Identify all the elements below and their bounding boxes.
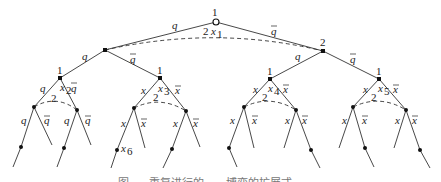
edge-label-x: x	[140, 84, 146, 96]
info-player-2: 2	[262, 91, 268, 103]
info-set-x: x	[59, 81, 65, 93]
edge-root-left	[105, 22, 216, 50]
edge-label-q: q	[172, 19, 178, 31]
info-set-x: x	[267, 82, 273, 94]
node-player-1: 1	[267, 65, 273, 77]
decision-node	[294, 108, 298, 112]
node-player-1: 1	[376, 65, 382, 77]
root-info-sub: 1	[217, 28, 223, 40]
decision-node	[158, 76, 162, 80]
info-player-2: 2	[51, 92, 57, 104]
decision-node	[404, 108, 408, 112]
edge	[420, 150, 430, 168]
info-set-x: x	[377, 82, 383, 94]
leaf-info-set-sub: 6	[127, 145, 133, 157]
edge	[21, 107, 34, 147]
decision-node	[58, 76, 62, 80]
leaf-info-set-x: x	[120, 142, 126, 154]
game-tree-diagram: 1 2 x 1 q q 2 q q q q 1 1 1 1 q x 2 q 2 …	[0, 0, 441, 182]
edge-label-qbar: q	[350, 53, 356, 65]
info-set-sub: 5	[384, 85, 390, 97]
game-tree-svg: 1 2 x 1 q q 2 q q q q 1 1 1 1 q x 2 q 2 …	[0, 0, 441, 182]
decision-node	[184, 109, 188, 113]
info-set	[134, 102, 186, 111]
info-set	[353, 101, 406, 110]
edge-label-q: q	[40, 82, 46, 94]
info-set	[244, 101, 296, 110]
edge-label-x: x	[172, 117, 178, 129]
decision-node	[418, 148, 422, 152]
edge	[57, 148, 64, 167]
info-set-sub: 3	[164, 85, 170, 97]
edge-label-qbar: q	[71, 82, 77, 94]
info-player-2: 2	[371, 91, 377, 103]
info-set-sub: 4	[274, 85, 280, 97]
decision-node	[321, 49, 325, 53]
edge	[311, 150, 320, 168]
edge-label-x: x	[362, 83, 368, 95]
decision-node	[75, 108, 79, 112]
node-player-2: 2	[320, 36, 326, 48]
edge-label-q: q	[21, 114, 27, 126]
root-info-set: x	[210, 25, 216, 37]
info-player-2: 2	[153, 91, 159, 103]
decision-node	[19, 145, 23, 149]
edge	[365, 148, 374, 167]
node-player-1: 1	[157, 64, 163, 76]
decision-node	[227, 146, 231, 150]
decision-node	[242, 105, 246, 109]
decision-node	[62, 146, 66, 150]
edge-label-x: x	[341, 114, 347, 126]
edge	[163, 149, 172, 168]
edge	[34, 107, 52, 145]
edge-label-x: x	[252, 83, 258, 95]
decision-node	[115, 148, 119, 152]
edge-label-q: q	[64, 114, 70, 126]
root-info-player: 2	[203, 25, 209, 37]
edge-label-x: x	[120, 117, 126, 129]
edge-label-q: q	[82, 50, 88, 62]
figure-caption: 图 x-x 重复进行的……博弈的扩展式	[118, 176, 292, 182]
decision-node	[103, 48, 107, 52]
decision-node	[268, 77, 272, 81]
decision-node	[351, 105, 355, 109]
root-player-label: 1	[212, 6, 218, 18]
edge-label-qbar: q	[271, 25, 277, 37]
decision-node	[309, 148, 313, 152]
decision-node	[377, 77, 381, 81]
decision-node	[363, 146, 367, 150]
node-player-1: 1	[57, 64, 63, 76]
decision-node	[32, 105, 36, 109]
edge-label-x: x	[229, 114, 235, 126]
edge-label-x: x	[284, 114, 290, 126]
info-set-level1	[105, 38, 323, 51]
decision-node	[170, 147, 174, 151]
edge	[13, 147, 21, 167]
edge	[111, 150, 117, 168]
edge-root-right	[216, 22, 323, 51]
edge-label-x: x	[394, 114, 400, 126]
decision-node	[132, 106, 136, 110]
edge	[229, 148, 237, 167]
edge-label-q: q	[295, 50, 301, 62]
edge-label-qbar: q	[130, 53, 136, 65]
